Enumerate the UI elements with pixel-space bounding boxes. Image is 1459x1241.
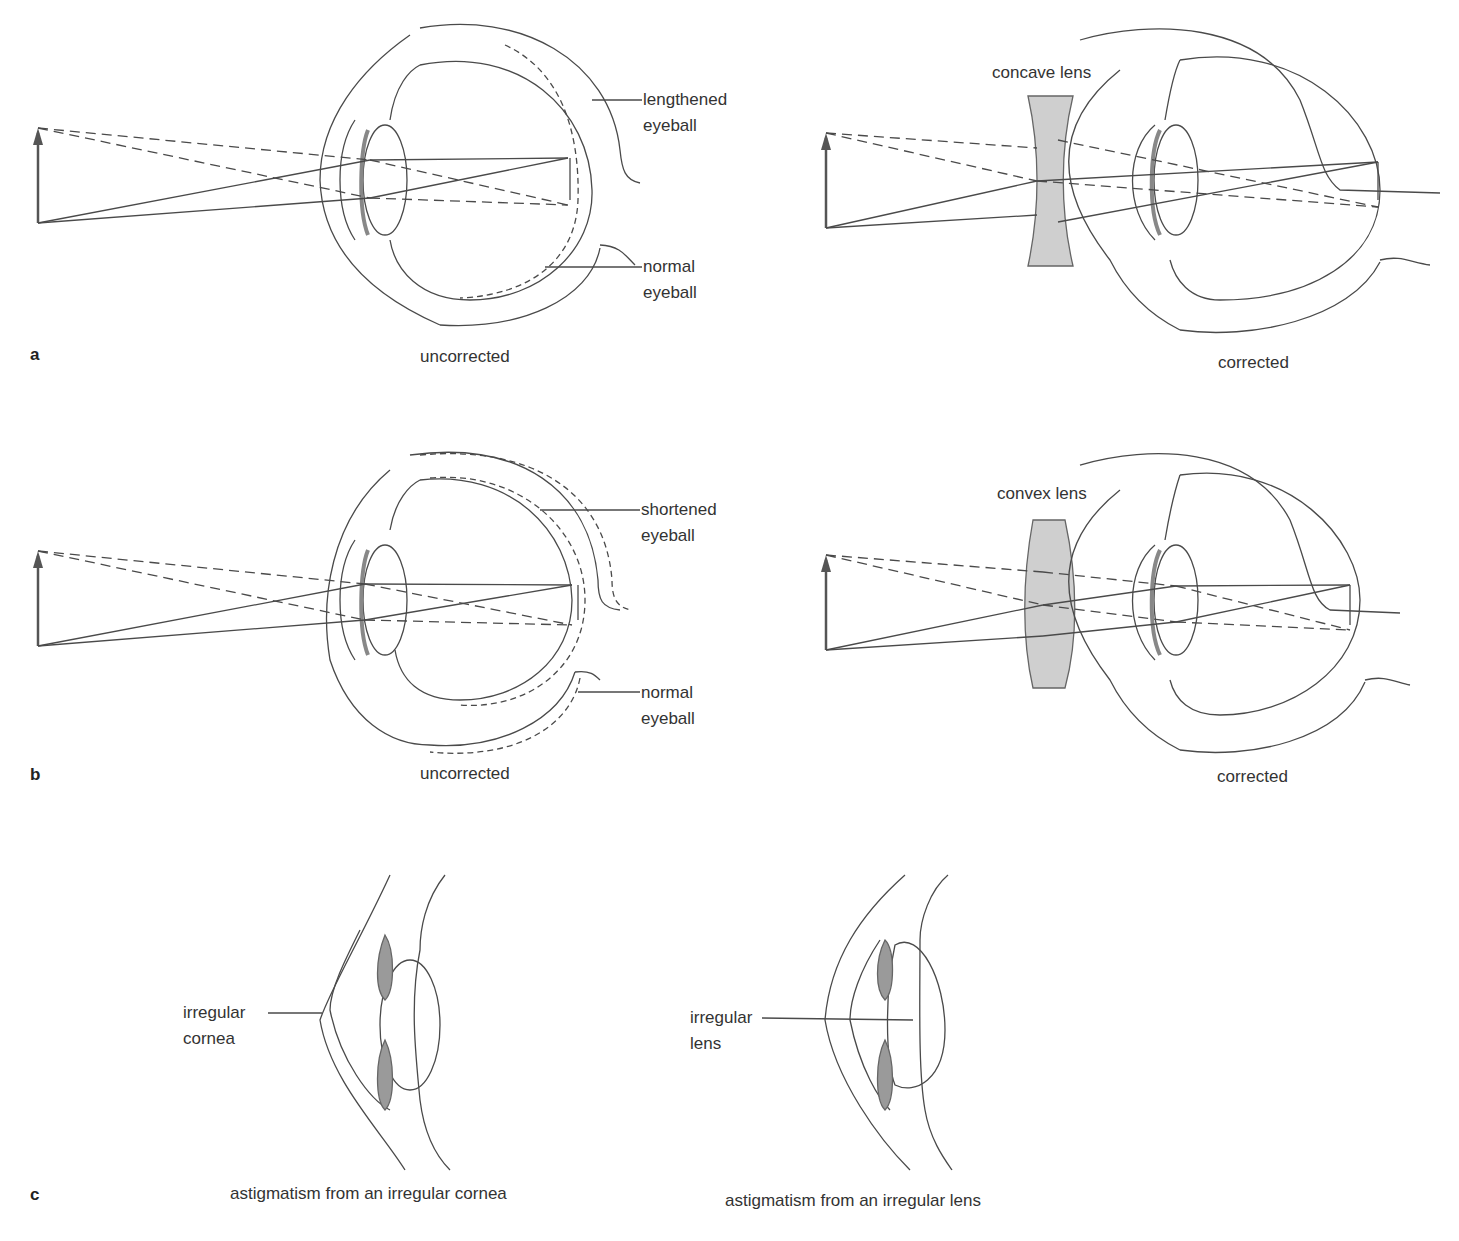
label-normal-eyeball-b: normal eyeball: [641, 680, 695, 732]
panel-letter-c: c: [30, 1185, 39, 1205]
panel-a-corrected-eye: [821, 29, 1440, 333]
label-irregular-cornea: irregular cornea: [183, 1000, 245, 1052]
caption-c-irregular-lens: astigmatism from an irregular lens: [725, 1191, 981, 1211]
caption-c-irregular-cornea: astigmatism from an irregular cornea: [230, 1184, 507, 1204]
panel-letter-a: a: [30, 345, 39, 365]
label-irregular-lens: irregular lens: [690, 1005, 752, 1057]
panel-b-uncorrected-eye: [33, 452, 640, 753]
label-convex-lens: convex lens: [997, 481, 1087, 507]
caption-b-corrected: corrected: [1217, 767, 1288, 787]
label-shortened-eyeball: shortened eyeball: [641, 497, 717, 549]
caption-b-uncorrected: uncorrected: [420, 764, 510, 784]
caption-a-corrected: corrected: [1218, 353, 1289, 373]
panel-a-uncorrected-eye: [33, 24, 642, 325]
label-lengthened-eyeball: lengthened eyeball: [643, 87, 727, 139]
panel-c-irregular-lens: [762, 875, 952, 1170]
caption-a-uncorrected: uncorrected: [420, 347, 510, 367]
label-normal-eyeball-a: normal eyeball: [643, 254, 697, 306]
panel-c-irregular-cornea: [268, 875, 450, 1170]
panel-b-corrected-eye: [821, 454, 1410, 753]
label-concave-lens: concave lens: [992, 60, 1091, 86]
panel-letter-b: b: [30, 765, 40, 785]
